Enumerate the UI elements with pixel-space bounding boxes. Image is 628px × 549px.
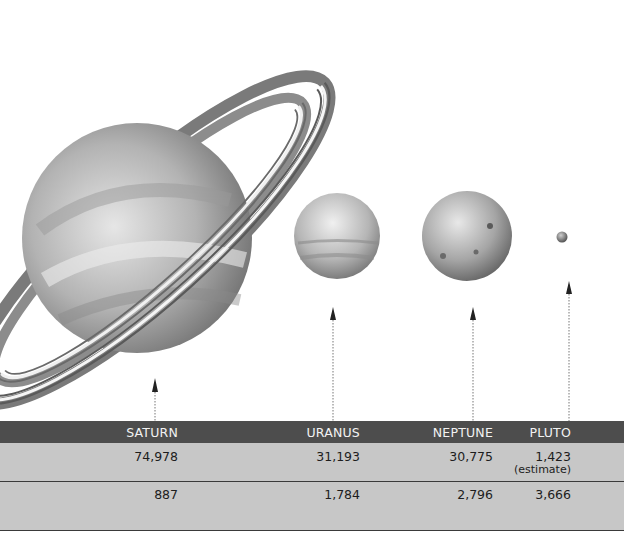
pluto-planet	[557, 232, 568, 243]
pluto-row1-value: 1,423	[535, 449, 571, 464]
uranus-planet	[294, 193, 380, 279]
cell-pluto-row2: 3,666	[535, 487, 571, 502]
cell-saturn-row1: 74,978	[134, 449, 178, 464]
header-pluto: PLUTO	[529, 425, 571, 440]
saturn-arrow-head	[152, 378, 158, 392]
planet-data-table: SATURN URANUS NEPTUNE PLUTO 74,978 31,19…	[0, 421, 624, 531]
cell-neptune-row2: 2,796	[457, 487, 493, 502]
cell-uranus-row1: 31,193	[316, 449, 360, 464]
uranus-arrow-head	[330, 307, 336, 320]
cell-saturn-row2: 887	[154, 487, 178, 502]
estimate-note: (estimate)	[514, 464, 571, 475]
header-neptune: NEPTUNE	[433, 425, 493, 440]
pluto-arrow-head	[566, 281, 572, 294]
cell-neptune-row1: 30,775	[449, 449, 493, 464]
neptune-planet	[422, 191, 512, 281]
header-uranus: URANUS	[306, 425, 360, 440]
table-row: 74,978 31,193 30,775 1,423 (estimate)	[0, 443, 624, 482]
table-row: 887 1,784 2,796 3,666	[0, 482, 624, 531]
table-header-row: SATURN URANUS NEPTUNE PLUTO	[0, 421, 624, 443]
cell-uranus-row2: 1,784	[324, 487, 360, 502]
header-saturn: SATURN	[126, 425, 178, 440]
neptune-arrow-head	[470, 307, 476, 320]
cell-pluto-row1: 1,423 (estimate)	[514, 449, 571, 475]
